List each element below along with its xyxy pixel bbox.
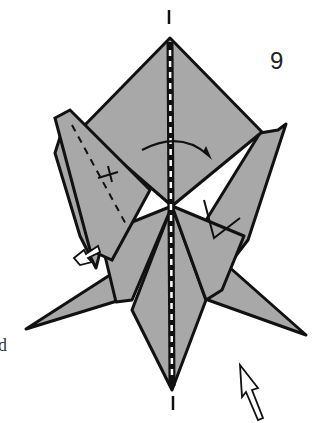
step-number: 9 [270, 47, 283, 75]
edge-text: d [0, 335, 7, 356]
origami-diagram: 9 d [0, 0, 318, 423]
push-arrow-bottom-right [240, 365, 263, 420]
